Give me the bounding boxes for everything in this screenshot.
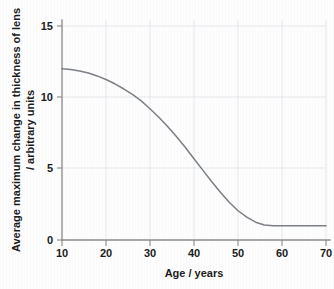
y-axis-tick-marks — [57, 26, 62, 240]
y-axis-title-line2: / arbitrary units — [24, 90, 36, 170]
x-axis-title: Age / years — [165, 267, 224, 279]
y-tick-label-5: 5 — [47, 162, 53, 174]
x-tick-label-10: 10 — [56, 247, 68, 259]
y-axis-title-line1: Average maximum change in thickness of l… — [10, 8, 22, 252]
y-tick-label-10: 10 — [41, 91, 53, 103]
y-axis-tick-labels: 0 5 10 15 — [41, 20, 53, 246]
x-axis-tick-marks — [62, 240, 326, 246]
x-tick-label-70: 70 — [320, 247, 332, 259]
y-tick-label-0: 0 — [47, 234, 53, 246]
y-tick-label-15: 15 — [41, 20, 53, 32]
vertical-gridlines — [106, 20, 326, 239]
chart-figure: 0 5 10 15 10 20 30 40 50 60 70 Age / yea… — [0, 0, 334, 289]
x-tick-label-30: 30 — [144, 247, 156, 259]
x-tick-label-40: 40 — [188, 247, 200, 259]
x-axis-tick-labels: 10 20 30 40 50 60 70 — [56, 247, 332, 259]
x-tick-label-50: 50 — [232, 247, 244, 259]
x-tick-label-60: 60 — [276, 247, 288, 259]
line-chart-plot: 0 5 10 15 10 20 30 40 50 60 70 Age / yea… — [0, 0, 334, 289]
x-tick-label-20: 20 — [100, 247, 112, 259]
